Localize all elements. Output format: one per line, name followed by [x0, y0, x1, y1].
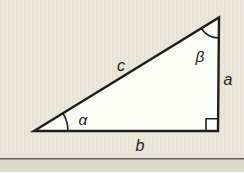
- alpha-angle-label: α: [79, 111, 89, 128]
- side-a-label: a: [224, 71, 233, 88]
- side-b-label: b: [136, 137, 145, 154]
- beta-angle-label: β: [195, 48, 205, 65]
- page-edge-strip: [0, 160, 244, 173]
- hypotenuse-label: c: [117, 57, 125, 74]
- right-triangle-diagram: c a b α β: [0, 0, 244, 172]
- textbook-page: c a b α β: [0, 0, 244, 172]
- triangle-outline: [34, 18, 219, 132]
